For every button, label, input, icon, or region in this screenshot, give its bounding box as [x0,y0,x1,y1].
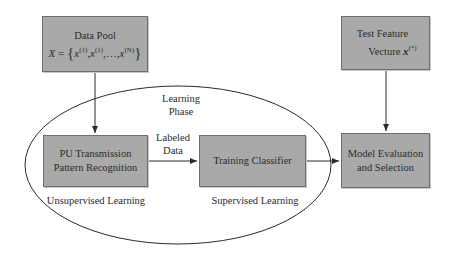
supervised-learning-label: Supervised Learning [205,194,305,207]
test-feature-line2: Vecture x(*) [368,41,416,59]
learning-phase-label: Learning Phase [156,92,206,118]
test-feature-line1: Test Feature [357,27,408,41]
unsupervised-learning-label: Unsupervised Learning [38,194,154,207]
pu-recognition-line2: Pattern Recognition [54,161,138,175]
model-evaluation-box: Model Evaluation and Selection [341,133,430,188]
labeled-data-label: Labeled Data [150,131,196,157]
data-pool-title: Data Pool [74,29,116,43]
test-feature-box: Test Feature Vecture x(*) [341,16,430,70]
training-classifier-box: Training Classifier [199,135,306,187]
model-evaluation-line2: and Selection [357,161,414,175]
training-classifier-label: Training Classifier [213,154,292,168]
pu-recognition-box: PU Transmission Pattern Recognition [43,135,148,187]
model-evaluation-line1: Model Evaluation [348,147,424,161]
data-pool-box: Data Pool X = {x(1),x(1),…,x(N)} [42,16,148,72]
data-pool-formula: X = {x(1),x(1),…,x(N)} [49,43,142,60]
pu-recognition-line1: PU Transmission [59,147,131,161]
